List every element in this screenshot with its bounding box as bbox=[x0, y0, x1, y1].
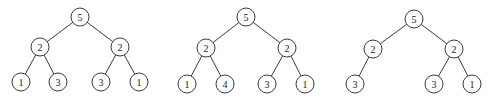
node-label: 1 bbox=[137, 77, 142, 88]
tree-edge bbox=[213, 23, 239, 43]
tree-node: 2 bbox=[197, 39, 215, 57]
tree-3: 522331 bbox=[346, 10, 481, 93]
tree-edge bbox=[124, 55, 134, 74]
node-label: 5 bbox=[78, 12, 83, 23]
tree-edge bbox=[253, 22, 280, 42]
tree-edge bbox=[47, 22, 73, 41]
tree-node: 2 bbox=[364, 40, 382, 58]
node-label: 5 bbox=[412, 14, 417, 25]
node-label: 2 bbox=[371, 44, 376, 55]
node-label: 3 bbox=[265, 79, 270, 90]
node-label: 3 bbox=[56, 77, 61, 88]
tree-edge bbox=[210, 56, 221, 76]
node-label: 3 bbox=[353, 79, 358, 90]
tree-edge bbox=[105, 55, 115, 74]
node-label: 5 bbox=[244, 12, 249, 23]
tree-edge bbox=[44, 55, 54, 74]
node-label: 2 bbox=[285, 43, 290, 54]
tree-edge bbox=[458, 57, 468, 76]
node-label: 1 bbox=[19, 77, 24, 88]
tree-node: 4 bbox=[216, 75, 234, 93]
tree-node: 3 bbox=[425, 75, 443, 93]
tree-node: 2 bbox=[278, 39, 296, 57]
tree-node: 1 bbox=[130, 73, 148, 91]
tree-node: 5 bbox=[71, 8, 89, 26]
tree-edge bbox=[421, 24, 447, 43]
node-label: 2 bbox=[118, 42, 123, 53]
tree-node: 5 bbox=[237, 8, 255, 26]
tree-node: 3 bbox=[258, 75, 276, 93]
tree-edge bbox=[380, 24, 406, 43]
tree-node: 2 bbox=[445, 40, 463, 58]
tree-2: 5221431 bbox=[178, 8, 314, 93]
tree-edge bbox=[191, 56, 202, 76]
tree-edge bbox=[25, 55, 35, 74]
node-label: 4 bbox=[223, 79, 228, 90]
tree-node: 5 bbox=[405, 10, 423, 28]
tree-node: 3 bbox=[346, 75, 364, 93]
node-label: 3 bbox=[432, 79, 437, 90]
node-label: 2 bbox=[204, 43, 209, 54]
tree-node: 1 bbox=[463, 75, 481, 93]
tree-node: 1 bbox=[178, 75, 196, 93]
node-label: 1 bbox=[470, 79, 475, 90]
tree-node: 2 bbox=[111, 38, 129, 56]
tree-edge bbox=[87, 22, 113, 41]
tree-edge bbox=[291, 56, 301, 76]
tree-node: 2 bbox=[31, 38, 49, 56]
tree-node: 3 bbox=[49, 73, 67, 91]
tree-node: 1 bbox=[12, 73, 30, 91]
node-label: 1 bbox=[303, 79, 308, 90]
tree-1: 5221331 bbox=[12, 8, 148, 91]
tree-node: 1 bbox=[296, 75, 314, 93]
tree-edge bbox=[271, 56, 282, 76]
node-label: 3 bbox=[99, 77, 104, 88]
node-label: 2 bbox=[452, 44, 457, 55]
tree-edge bbox=[438, 57, 449, 76]
node-label: 2 bbox=[38, 42, 43, 53]
tree-node: 3 bbox=[92, 73, 110, 91]
tree-edge bbox=[359, 57, 369, 76]
binary-trees-diagram: 52213315221431522331 bbox=[0, 0, 491, 106]
node-label: 1 bbox=[185, 79, 190, 90]
